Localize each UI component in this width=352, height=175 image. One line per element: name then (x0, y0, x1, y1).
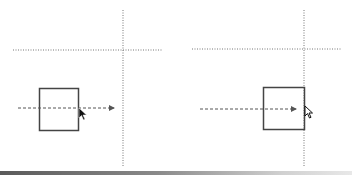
panel-after (192, 10, 342, 166)
panel-before (13, 10, 162, 166)
diagram-canvas (0, 0, 352, 175)
cursor-icon (79, 108, 87, 120)
bottom-edge-bar (0, 171, 352, 175)
square-box[interactable] (264, 88, 305, 130)
cursor-icon (305, 106, 313, 118)
square-box[interactable] (40, 89, 79, 131)
